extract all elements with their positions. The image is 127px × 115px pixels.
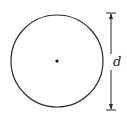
center-point xyxy=(55,59,58,62)
circle-diagram: d xyxy=(0,0,127,115)
diameter-label: d xyxy=(113,54,121,69)
arrowhead-top-icon xyxy=(109,13,113,19)
arrowhead-bottom-icon xyxy=(109,104,113,110)
